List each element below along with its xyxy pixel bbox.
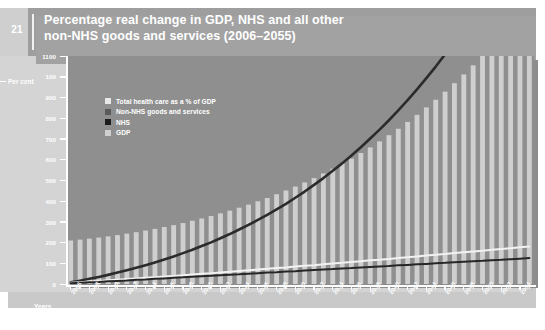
bar xyxy=(68,240,73,284)
bar xyxy=(143,231,148,284)
bar xyxy=(152,229,157,284)
x-axis-tick xyxy=(136,286,137,289)
bar xyxy=(386,135,391,284)
legend-item: NHS xyxy=(105,117,216,128)
bar xyxy=(293,187,298,284)
x-axis-tick xyxy=(79,286,80,289)
bar xyxy=(405,122,410,284)
bar xyxy=(124,234,129,284)
x-axis-tick xyxy=(473,286,474,289)
legend-item: Non-NHS goods and services xyxy=(105,107,216,118)
bar xyxy=(424,107,429,284)
y-axis-tick xyxy=(60,76,66,77)
bar xyxy=(377,141,382,284)
bar xyxy=(106,236,111,284)
bar xyxy=(227,211,232,284)
x-axis-tick xyxy=(398,286,399,289)
y-axis-tick-label: 500 xyxy=(30,177,56,184)
y-axis-tick xyxy=(60,263,66,264)
y-axis-tick-label: 200 xyxy=(30,239,56,246)
x-axis-tick xyxy=(98,286,99,289)
bar xyxy=(255,201,260,284)
bar xyxy=(527,56,532,284)
y-axis-tick-label: 600 xyxy=(30,156,56,163)
y-axis-tick-label: 100 xyxy=(30,73,56,80)
bar xyxy=(349,159,354,284)
x-axis-tick xyxy=(154,286,155,289)
bar xyxy=(265,198,270,284)
x-axis-tick xyxy=(173,286,174,289)
bar xyxy=(246,205,251,284)
y-axis-tick-label: 800 xyxy=(30,115,56,122)
y-axis-tick-label: 700 xyxy=(30,136,56,143)
x-axis-tick xyxy=(285,286,286,289)
chart-legend: Total health care as a % of GDPNon-NHS g… xyxy=(105,96,216,138)
bar xyxy=(115,235,120,284)
title-line-1: Percentage real change in GDP, NHS and a… xyxy=(44,13,344,27)
chart-canvas xyxy=(66,56,534,284)
x-axis-tick xyxy=(210,286,211,289)
bar xyxy=(508,56,513,284)
legend-label: Non-NHS goods and services xyxy=(116,108,210,115)
bar xyxy=(312,178,317,284)
x-axis-tick xyxy=(416,286,417,289)
bar-series-gdp xyxy=(68,56,532,284)
y-axis-tick-label: 900 xyxy=(30,94,56,101)
y-axis-tick-label: 100 xyxy=(30,260,56,267)
line-series-non-nhs-goods-and-services xyxy=(71,56,530,282)
percent-caption-tick xyxy=(0,81,6,82)
x-axis-tick xyxy=(379,286,380,289)
bar xyxy=(302,182,307,284)
x-axis-tick xyxy=(323,286,324,289)
x-axis-tick xyxy=(491,286,492,289)
screenshot-root: 21 Percentage real change in GDP, NHS an… xyxy=(0,0,545,330)
y-axis-tick-label: 1100 xyxy=(30,53,56,60)
y-axis-tick xyxy=(60,159,66,160)
bar xyxy=(443,92,448,284)
x-axis-tick xyxy=(529,286,530,289)
page-title: Percentage real change in GDP, NHS and a… xyxy=(44,12,474,44)
header-divider xyxy=(32,14,34,50)
x-axis-caption: Years xyxy=(34,303,51,310)
title-line-2: non-NHS goods and services (2006–2055) xyxy=(44,29,296,43)
page-number: 21 xyxy=(6,24,28,35)
bar xyxy=(358,153,363,284)
bar xyxy=(433,100,438,284)
y-axis-tick xyxy=(60,118,66,119)
y-axis-tick xyxy=(60,138,66,139)
bar xyxy=(396,129,401,284)
legend-swatch-icon xyxy=(105,109,111,115)
x-axis-tick xyxy=(510,286,511,289)
bar xyxy=(368,147,373,284)
y-axis-tick xyxy=(60,56,66,57)
y-axis-tick-label: 400 xyxy=(30,198,56,205)
x-axis-tick xyxy=(304,286,305,289)
x-axis-tick xyxy=(360,286,361,289)
y-axis-tick-label: 0 xyxy=(30,281,56,288)
y-axis-tick-label: 300 xyxy=(30,219,56,226)
bar xyxy=(78,240,83,284)
y-axis-tick xyxy=(60,201,66,202)
x-axis-tick xyxy=(117,286,118,289)
y-axis-line xyxy=(66,56,68,286)
x-axis-tick xyxy=(454,286,455,289)
legend-item: GDP xyxy=(105,128,216,139)
bar xyxy=(518,56,523,284)
line-series-nhs xyxy=(71,258,530,283)
legend-item: Total health care as a % of GDP xyxy=(105,96,216,107)
legend-swatch-icon xyxy=(105,130,111,136)
x-axis-tick xyxy=(248,286,249,289)
bar xyxy=(415,115,420,284)
y-axis-tick xyxy=(60,180,66,181)
legend-swatch-icon xyxy=(105,98,111,104)
y-axis-tick xyxy=(60,284,66,285)
bar xyxy=(330,169,335,284)
bar xyxy=(340,164,345,284)
bar xyxy=(237,208,242,284)
y-axis-tick xyxy=(60,97,66,98)
legend-label: Total health care as a % of GDP xyxy=(116,98,216,105)
x-axis-tick xyxy=(192,286,193,289)
bar xyxy=(321,174,326,284)
x-axis-tick xyxy=(267,286,268,289)
legend-swatch-icon xyxy=(105,119,111,125)
